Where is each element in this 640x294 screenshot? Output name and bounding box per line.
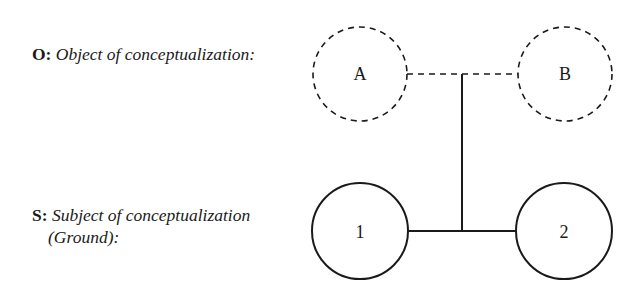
node-a-label: A (354, 64, 367, 84)
node-2-label: 2 (560, 222, 569, 242)
node-b-label: B (559, 64, 571, 84)
conceptualization-diagram: A B 1 2 (0, 0, 640, 294)
node-1-label: 1 (356, 222, 365, 242)
